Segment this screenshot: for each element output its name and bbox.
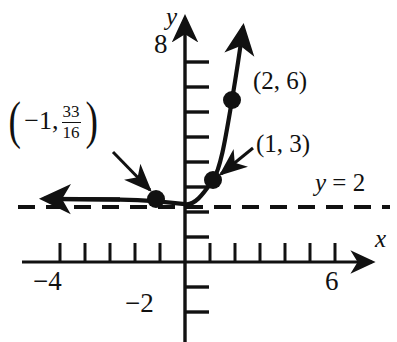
fraction-numerator: 33 bbox=[62, 103, 81, 120]
leader-arrows bbox=[113, 148, 253, 190]
x-tick-label-neg4: −4 bbox=[33, 268, 62, 295]
point-label-1-3: (1, 3) bbox=[256, 131, 310, 156]
point-label-2-6: (2, 6) bbox=[253, 68, 307, 93]
x-tick-label-6: 6 bbox=[325, 268, 339, 295]
asymptote-label-equals: = bbox=[326, 169, 353, 196]
close-paren: ) bbox=[85, 100, 97, 143]
x-axis bbox=[22, 243, 372, 262]
graph-figure: y x 8 −2 −4 6 y = 2 (2, 6) (1, 3) ( −1, … bbox=[0, 0, 397, 342]
fraction-denominator: 16 bbox=[62, 124, 81, 141]
data-point-neg1 bbox=[147, 190, 165, 208]
point-label-neg1-33-16: ( −1, 33 16 ) bbox=[6, 100, 100, 143]
x-axis-label: x bbox=[375, 226, 386, 251]
asymptote-label-var: y bbox=[315, 169, 326, 196]
open-paren: ( bbox=[8, 100, 20, 143]
y-tick-label-8: 8 bbox=[154, 31, 168, 58]
asymptote-label-value: 2 bbox=[353, 169, 366, 196]
x-axis-ticks bbox=[60, 243, 335, 262]
y-axis-label: y bbox=[166, 4, 177, 29]
data-points bbox=[147, 91, 241, 208]
leader-arrow-fraction bbox=[113, 152, 150, 190]
fraction: 33 16 bbox=[61, 103, 82, 141]
leader-arrow-1-3 bbox=[221, 148, 253, 174]
asymptote-label: y = 2 bbox=[315, 170, 365, 195]
y-tick-label-neg2: −2 bbox=[125, 290, 154, 317]
fraction-label-x: −1, bbox=[24, 106, 60, 136]
data-point-2-6 bbox=[223, 91, 241, 109]
data-point-1-3 bbox=[204, 171, 222, 189]
